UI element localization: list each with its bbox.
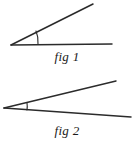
fig2-upper-ray <box>4 81 116 108</box>
figure-2-caption: fig 2 <box>0 124 134 137</box>
figure-2-group <box>4 81 131 117</box>
figure-1-caption: fig 1 <box>0 50 134 63</box>
fig1-baseline-ray <box>11 44 112 45</box>
figure-canvas: fig 1 fig 2 <box>0 0 134 147</box>
figure-1-group <box>11 4 112 45</box>
fig1-upper-ray <box>11 4 93 45</box>
fig1-angle-arc <box>36 31 38 44</box>
fig2-lower-ray <box>4 108 131 117</box>
